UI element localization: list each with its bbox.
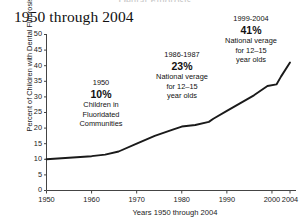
x-tick-label: 2004 xyxy=(270,196,303,204)
annotation-1950: 1950 10% Children in Fluoridated Communi… xyxy=(55,78,147,129)
annotation-1999-2004-year: 1999-2004 xyxy=(203,14,299,24)
x-tick-label: 1960 xyxy=(72,196,112,204)
x-axis-title: Years 1950 through 2004 xyxy=(60,208,290,217)
annotation-1999-2004-line-2: for 12–15 xyxy=(203,46,299,56)
y-tick-label: 0 xyxy=(20,186,42,194)
annotation-1950-line-3: Communities xyxy=(55,119,147,129)
y-axis-title: Percent of Children with Dental Fluorosi… xyxy=(25,0,34,150)
annotation-1950-percent: 10% xyxy=(55,90,147,100)
annotation-1950-line-1: Children in xyxy=(55,100,147,110)
y-tick-label: 5 xyxy=(20,171,42,179)
annotation-1950-year: 1950 xyxy=(55,78,147,88)
x-tick-label: 1980 xyxy=(162,196,202,204)
y-tick-label: 10 xyxy=(20,155,42,163)
annotation-1986-1987-line-1: National verage xyxy=(136,72,228,82)
plot-area: 05101520253035404550 1950196019701980199… xyxy=(0,0,303,224)
annotation-1999-2004-line-3: year olds xyxy=(203,55,299,65)
annotation-1999-2004-line-1: National verage xyxy=(203,36,299,46)
annotation-1950-line-2: Fluoridated xyxy=(55,110,147,120)
x-tick-label: 1950 xyxy=(27,196,67,204)
x-tick-label: 1970 xyxy=(117,196,157,204)
annotation-1999-2004-percent: 41% xyxy=(203,26,299,36)
annotation-1999-2004: 1999-2004 41% National verage for 12–15 … xyxy=(203,14,299,65)
dental-fluorosis-chart-figure: Dental Fluorosis 1950 through 2004 05101… xyxy=(0,0,303,224)
x-tick-label: 1990 xyxy=(207,196,247,204)
annotation-1986-1987-line-3: year olds xyxy=(136,91,228,101)
annotation-1986-1987-line-2: for 12–15 xyxy=(136,82,228,92)
